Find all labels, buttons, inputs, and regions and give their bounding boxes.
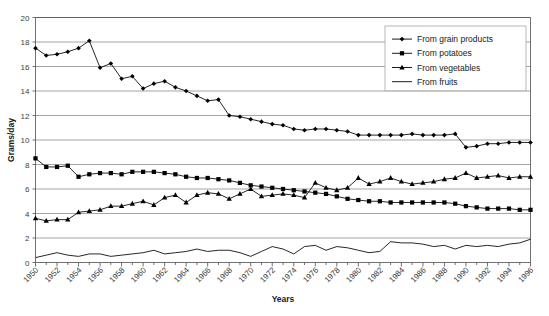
data-point-1967 xyxy=(216,177,220,181)
data-point-1992 xyxy=(485,206,489,210)
data-point-1984 xyxy=(399,200,403,204)
xtick-label-1984: 1984 xyxy=(387,265,406,284)
data-point-1971 xyxy=(259,184,263,188)
xtick-label-1980: 1980 xyxy=(344,265,363,284)
xtick-label-1976: 1976 xyxy=(301,265,320,284)
data-point-1968 xyxy=(227,178,231,182)
legend-marker-square xyxy=(400,51,404,55)
data-point-1978 xyxy=(335,194,339,198)
chart-container: 02468101214161820 1950195219541956195819… xyxy=(0,0,549,316)
xtick-label-1964: 1964 xyxy=(172,265,191,284)
xtick-label-1994: 1994 xyxy=(495,265,514,284)
data-point-1961 xyxy=(152,170,156,174)
ytick-label-14: 14 xyxy=(21,87,30,96)
ytick-label-0: 0 xyxy=(25,259,30,268)
data-point-1979 xyxy=(345,197,349,201)
dietary-fiber-line-chart: 02468101214161820 1950195219541956195819… xyxy=(0,0,549,316)
data-point-1996 xyxy=(528,208,532,212)
xtick-label-1986: 1986 xyxy=(409,265,428,284)
data-point-1981 xyxy=(367,199,371,203)
xtick-label-1988: 1988 xyxy=(430,265,449,284)
xtick-label-1982: 1982 xyxy=(366,265,385,284)
data-point-1957 xyxy=(109,171,113,175)
data-point-1958 xyxy=(119,172,123,176)
data-point-1977 xyxy=(324,192,328,196)
xtick-label-1966: 1966 xyxy=(194,265,213,284)
legend-label: From fruits xyxy=(417,77,458,87)
data-point-1963 xyxy=(173,172,177,176)
data-point-1964 xyxy=(184,175,188,179)
y-axis-title: Grams/day xyxy=(6,118,16,162)
data-point-1960 xyxy=(141,170,145,174)
chart-legend: From grain productsFrom potatoesFrom veg… xyxy=(385,26,526,91)
ytick-label-12: 12 xyxy=(21,112,30,121)
data-point-1959 xyxy=(130,170,134,174)
xtick-label-1962: 1962 xyxy=(151,265,170,284)
ytick-label-6: 6 xyxy=(25,185,30,194)
y-axis-tick-labels: 02468101214161820 xyxy=(21,14,30,268)
ytick-label-4: 4 xyxy=(25,210,30,219)
xtick-label-1950: 1950 xyxy=(21,265,40,284)
xtick-label-1992: 1992 xyxy=(473,265,492,284)
data-point-1988 xyxy=(442,200,446,204)
ytick-label-16: 16 xyxy=(21,63,30,72)
xtick-label-1954: 1954 xyxy=(65,265,84,284)
data-point-1972 xyxy=(270,186,274,190)
data-point-1994 xyxy=(507,206,511,210)
ytick-label-8: 8 xyxy=(25,161,30,170)
data-point-1956 xyxy=(98,171,102,175)
data-point-1986 xyxy=(421,200,425,204)
ytick-label-2: 2 xyxy=(25,234,30,243)
data-point-1954 xyxy=(76,175,80,179)
data-point-1995 xyxy=(518,208,522,212)
xtick-label-1990: 1990 xyxy=(452,265,471,284)
legend-label: From vegetables xyxy=(417,63,480,73)
xtick-label-1972: 1972 xyxy=(258,265,277,284)
data-point-1985 xyxy=(410,200,414,204)
data-point-1989 xyxy=(453,202,457,206)
xtick-label-1958: 1958 xyxy=(108,265,127,284)
legend-label: From potatoes xyxy=(417,48,472,58)
legend-label: From grain products xyxy=(417,34,493,44)
data-point-1982 xyxy=(378,199,382,203)
data-point-1953 xyxy=(66,164,70,168)
data-point-1983 xyxy=(388,200,392,204)
data-point-1974 xyxy=(292,188,296,192)
data-point-1966 xyxy=(206,176,210,180)
data-point-1993 xyxy=(496,206,500,210)
xtick-label-1956: 1956 xyxy=(86,265,105,284)
ytick-label-18: 18 xyxy=(21,38,30,47)
x-axis-title: Years xyxy=(272,294,295,304)
xtick-label-1996: 1996 xyxy=(516,265,535,284)
data-point-1950 xyxy=(33,156,37,160)
data-point-1973 xyxy=(281,187,285,191)
data-point-1962 xyxy=(163,171,167,175)
data-point-1990 xyxy=(464,204,468,208)
xtick-label-1960: 1960 xyxy=(129,265,148,284)
ytick-label-20: 20 xyxy=(21,14,30,23)
xtick-label-1970: 1970 xyxy=(237,265,256,284)
data-point-1987 xyxy=(432,200,436,204)
xtick-label-1952: 1952 xyxy=(43,265,62,284)
data-point-1991 xyxy=(475,205,479,209)
xtick-label-1968: 1968 xyxy=(215,265,234,284)
data-point-1975 xyxy=(302,189,306,193)
data-point-1980 xyxy=(356,198,360,202)
data-point-1952 xyxy=(55,165,59,169)
data-point-1955 xyxy=(87,172,91,176)
y-axis-tick-marks xyxy=(33,18,36,263)
x-axis-tick-labels: 1950195219541956195819601962196419661968… xyxy=(21,265,535,284)
ytick-label-10: 10 xyxy=(21,136,30,145)
x-axis-tick-marks xyxy=(36,263,531,267)
data-point-1969 xyxy=(238,181,242,185)
xtick-label-1974: 1974 xyxy=(280,265,299,284)
data-point-1965 xyxy=(195,176,199,180)
xtick-label-1978: 1978 xyxy=(323,265,342,284)
data-point-1976 xyxy=(313,191,317,195)
data-point-1951 xyxy=(44,165,48,169)
